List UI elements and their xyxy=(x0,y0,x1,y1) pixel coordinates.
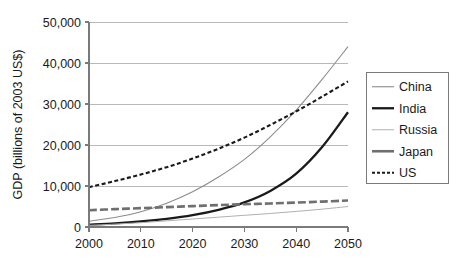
y-tick-label-50000: 50,000 xyxy=(43,16,81,30)
x-tick-label-2010: 2010 xyxy=(127,237,155,251)
chart-canvas: 010,00020,00030,00040,00050,000 20002010… xyxy=(0,0,461,267)
y-tick-label-40000: 40,000 xyxy=(43,57,81,71)
y-tick-label-0: 0 xyxy=(74,221,81,235)
x-tick-label-2040: 2040 xyxy=(282,237,310,251)
legend-label-japan: Japan xyxy=(399,145,433,159)
x-tick-label-2030: 2030 xyxy=(230,237,258,251)
x-tick-label-2050: 2050 xyxy=(334,237,362,251)
legend-label-russia: Russia xyxy=(399,123,437,137)
y-tick-label-30000: 30,000 xyxy=(43,98,81,112)
y-tick-label-20000: 20,000 xyxy=(43,139,81,153)
gdp-projection-chart: 010,00020,00030,00040,00050,000 20002010… xyxy=(0,0,461,267)
x-tick-label-2020: 2020 xyxy=(179,237,207,251)
legend-label-india: India xyxy=(399,102,426,116)
y-axis-title: GDP (billions of 2003 US$) xyxy=(11,50,25,200)
legend-label-us: US xyxy=(399,166,416,180)
y-tick-label-10000: 10,000 xyxy=(43,180,81,194)
legend-label-china: China xyxy=(399,80,432,94)
x-tick-label-2000: 2000 xyxy=(75,237,103,251)
chart-legend: ChinaIndiaRussiaJapanUS xyxy=(366,72,448,184)
